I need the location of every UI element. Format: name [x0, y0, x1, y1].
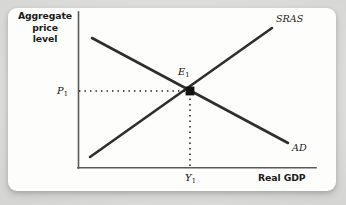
sras-curve-label: SRAS: [276, 13, 303, 24]
equilibrium-point-label-subscript: 1: [185, 71, 189, 79]
y-axis-title: Aggregate price level: [14, 10, 76, 45]
y-axis-title-line-2: price: [14, 22, 76, 34]
y-axis-title-line-3: level: [14, 33, 76, 45]
output-axis-label-base: Y: [185, 172, 191, 183]
output-axis-label: Y1: [185, 172, 196, 183]
y-axis-title-line-1: Aggregate: [14, 10, 76, 22]
output-axis-label-subscript: 1: [192, 177, 196, 185]
price-axis-label-base: P: [57, 85, 64, 96]
x-axis-title: Real GDP: [258, 172, 306, 183]
equilibrium-point-label: E1: [178, 66, 189, 77]
price-axis-label: P1: [57, 85, 68, 96]
price-axis-label-subscript: 1: [64, 90, 68, 98]
figure-page: Aggregate price level Real GDP SRAS AD P…: [0, 0, 346, 205]
ad-curve-label: AD: [292, 142, 307, 153]
